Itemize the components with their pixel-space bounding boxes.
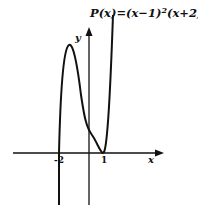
x-axis-arrow-icon <box>155 150 164 157</box>
polynomial-graph: P(x)=(x−1)2(x+2)(x2+1) y x -2 1 <box>0 0 198 222</box>
y-axis-label: y <box>74 32 82 43</box>
polynomial-curve <box>59 15 113 205</box>
x-axis-label: x <box>147 154 155 165</box>
y-axis-arrow-icon <box>86 27 93 36</box>
tick-label-1: 1 <box>101 155 107 165</box>
graph-title: P(x)=(x−1)2(x+2)(x2+1) <box>89 5 198 20</box>
